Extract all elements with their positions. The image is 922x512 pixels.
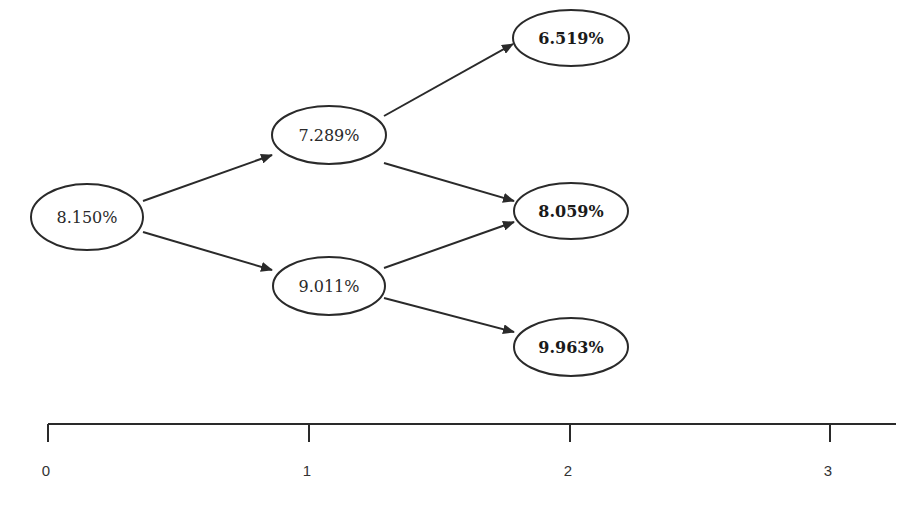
arrow-n1d-to-n2dd: [384, 298, 514, 332]
node-rate-label: 8.150%: [56, 208, 117, 227]
node-rate-label: 8.059%: [538, 202, 603, 221]
node-rate-label: 7.289%: [298, 126, 359, 145]
tree-node-n1d: 9.011%: [273, 257, 385, 315]
node-rate-label: 9.011%: [298, 277, 359, 296]
arrow-n1u-to-n2ud: [384, 163, 514, 201]
tree-node-n2ud: 8.059%: [514, 183, 628, 239]
tree-node-n1u: 7.289%: [272, 106, 386, 164]
arrow-n0-to-n1d: [143, 232, 272, 270]
tree-node-n2dd: 9.963%: [514, 318, 628, 376]
arrow-n1d-to-n2ud: [384, 222, 514, 268]
arrow-n0-to-n1u: [143, 155, 272, 201]
tree-nodes: 8.150%7.289%9.011%6.519%8.059%9.963%: [31, 10, 629, 376]
axis-tick-label: 1: [303, 462, 311, 479]
tree-node-n0: 8.150%: [31, 184, 143, 250]
interest-rate-tree-diagram: 8.150%7.289%9.011%6.519%8.059%9.963% 012…: [0, 0, 922, 512]
axis-tick-label: 2: [564, 462, 572, 479]
tree-node-n2uu: 6.519%: [513, 10, 629, 66]
node-rate-label: 6.519%: [538, 29, 603, 48]
axis-tick-label: 0: [42, 462, 50, 479]
time-axis: 0123: [42, 424, 896, 479]
node-rate-label: 9.963%: [538, 338, 603, 357]
arrow-n1u-to-n2uu: [384, 44, 513, 116]
axis-tick-label: 3: [824, 462, 832, 479]
